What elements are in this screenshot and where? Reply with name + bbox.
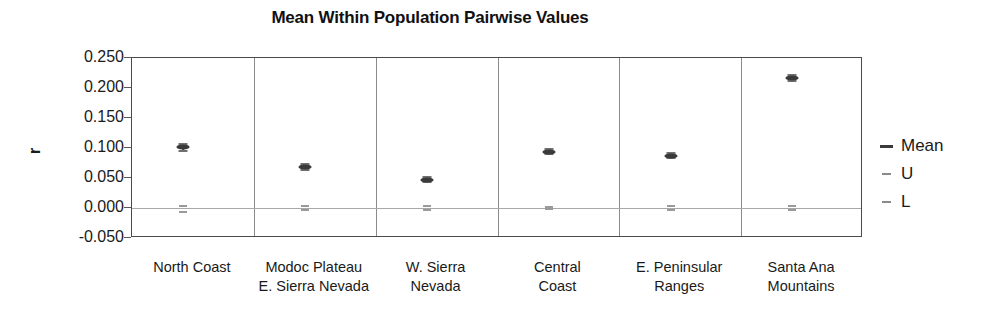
- y-axis-tick-labels: 0.2500.2000.1500.1000.0500.000-0.050: [46, 0, 124, 317]
- y-axis-tick-label: 0.100: [50, 138, 124, 156]
- y-axis-title: r: [22, 138, 48, 164]
- chart-container: Mean Within Population Pairwise Values r…: [0, 0, 997, 317]
- null-upper-marker: [667, 205, 675, 207]
- null-lower-marker: [179, 211, 187, 213]
- y-axis-tick-label: 0.000: [50, 198, 124, 216]
- zero-reference-line: [132, 208, 861, 209]
- y-axis-tick-mark: [124, 117, 131, 118]
- null-lower-marker: [423, 209, 431, 211]
- chart-title: Mean Within Population Pairwise Values: [0, 8, 860, 28]
- y-axis-tick-mark: [124, 207, 131, 208]
- x-axis-category-line-2: Ranges: [618, 277, 740, 296]
- y-axis-tick-mark: [124, 57, 131, 58]
- null-upper-marker: [301, 205, 309, 207]
- x-axis-category-line-1: North Coast: [153, 259, 230, 275]
- y-axis-tick-mark: [124, 147, 131, 148]
- y-axis-tick-label: 0.200: [50, 78, 124, 96]
- y-axis-tick-mark: [124, 237, 131, 238]
- legend-marker-icon: [882, 201, 891, 203]
- legend-item-l[interactable]: L: [880, 188, 992, 216]
- y-axis-tick-label: 0.250: [50, 48, 124, 66]
- null-lower-marker: [301, 209, 309, 211]
- x-axis-category-line-1: Santa Ana: [768, 259, 835, 275]
- x-axis-category-label: E. PeninsularRanges: [618, 258, 740, 296]
- x-axis-category-line-2: E. Sierra Nevada: [253, 277, 375, 296]
- panel-separator: [376, 58, 377, 236]
- y-axis-tick-label: -0.050: [50, 228, 124, 246]
- x-axis-category-label: W. SierraNevada: [375, 258, 497, 296]
- x-axis-category-line-2: Mountains: [740, 277, 862, 296]
- mean-marker: [542, 149, 555, 154]
- mean-marker: [177, 145, 190, 150]
- panel-separator: [741, 58, 742, 236]
- null-lower-marker: [545, 208, 553, 210]
- panel-separator: [619, 58, 620, 236]
- plot-area: [131, 57, 862, 237]
- null-upper-marker: [179, 205, 187, 207]
- lower-bound-marker: [179, 150, 188, 152]
- y-axis-tick-label: 0.050: [50, 168, 124, 186]
- y-axis-tick-label: 0.150: [50, 108, 124, 126]
- x-axis-category-line-2: Nevada: [375, 277, 497, 296]
- panel-separator: [498, 58, 499, 236]
- null-lower-marker: [667, 209, 675, 211]
- mean-marker: [786, 76, 799, 81]
- legend-marker-icon: [882, 173, 891, 175]
- x-axis-category-line-2: Coast: [497, 277, 619, 296]
- legend-item-u[interactable]: U: [880, 160, 992, 188]
- x-axis-category-line-1: Modoc Plateau: [265, 259, 362, 275]
- legend-item-mean[interactable]: Mean: [880, 132, 992, 160]
- panel-separator: [254, 58, 255, 236]
- x-axis-category-labels: North CoastModoc PlateauE. Sierra Nevada…: [131, 258, 862, 306]
- mean-marker: [664, 153, 677, 158]
- legend-label: L: [901, 192, 910, 212]
- x-axis-category-label: Modoc PlateauE. Sierra Nevada: [253, 258, 375, 296]
- mean-marker: [299, 165, 312, 170]
- chart-legend: MeanUL: [880, 132, 992, 216]
- y-axis-tick-mark: [124, 87, 131, 88]
- x-axis-category-line-1: W. Sierra: [406, 259, 466, 275]
- x-axis-category-line-1: Central: [534, 259, 581, 275]
- legend-marker-icon: [880, 145, 893, 148]
- mean-marker: [420, 177, 433, 182]
- null-upper-marker: [423, 205, 431, 207]
- x-axis-category-line-1: E. Peninsular: [636, 259, 722, 275]
- x-axis-category-label: Santa AnaMountains: [740, 258, 862, 296]
- legend-label: U: [901, 164, 913, 184]
- x-axis-category-label: North Coast: [131, 258, 253, 277]
- null-lower-marker: [788, 209, 796, 211]
- legend-label: Mean: [901, 136, 944, 156]
- y-axis-tick-mark: [124, 177, 131, 178]
- null-upper-marker: [788, 205, 796, 207]
- x-axis-category-label: CentralCoast: [497, 258, 619, 296]
